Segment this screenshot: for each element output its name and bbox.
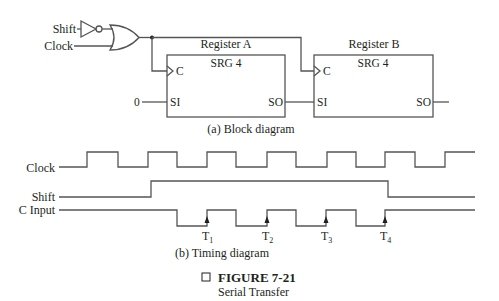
figure-title: Serial Transfer — [218, 285, 289, 299]
or-gate-icon — [110, 25, 139, 50]
c-input-signal-label: C Input — [19, 203, 56, 217]
timing-diagram: Clock Shift C Input T1 T2 T3 T4 (b) Timi… — [19, 152, 475, 260]
register-b: Register B SRG 4 C SI SO — [314, 37, 433, 117]
register-a-so-pin: SO — [268, 96, 283, 108]
marker-t4: T4 — [380, 229, 391, 245]
register-b-so-pin: SO — [416, 96, 431, 108]
marker-t1: T1 — [202, 229, 213, 245]
serial-transfer-figure: Shift Clock Register A SRG 4 C SI SO — [0, 0, 499, 301]
register-b-clock-pin: C — [323, 65, 331, 77]
block-diagram-caption: (a) Block diagram — [207, 122, 295, 136]
timing-diagram-caption: (b) Timing diagram — [175, 246, 270, 260]
shift-signal-label: Shift — [32, 190, 56, 204]
register-a-clock-pin: C — [176, 65, 184, 77]
register-a-label: Register A — [201, 37, 252, 51]
figure-number: FIGURE 7-21 — [218, 270, 296, 285]
not-gate-icon — [81, 21, 102, 37]
register-a: Register A SRG 4 C SI SO — [167, 37, 285, 117]
marker-t3: T3 — [321, 229, 332, 245]
register-a-type: SRG 4 — [211, 57, 242, 69]
register-b-label: Register B — [349, 37, 400, 51]
marker-t2: T2 — [262, 229, 273, 245]
figure-caption: FIGURE 7-21 Serial Transfer — [202, 270, 296, 299]
clock-waveform — [59, 152, 475, 167]
block-diagram: Shift Clock Register A SRG 4 C SI SO — [44, 21, 449, 136]
shift-waveform — [59, 181, 475, 197]
register-b-type: SRG 4 — [358, 57, 389, 69]
clock-signal-label: Clock — [26, 161, 55, 175]
shift-input-label: Shift — [53, 22, 77, 36]
serial-in-zero: 0 — [134, 96, 140, 108]
clock-a-wire — [152, 38, 167, 72]
register-b-si-pin: SI — [317, 96, 327, 108]
square-outline-icon — [202, 273, 210, 281]
clock-input-label: Clock — [44, 39, 73, 53]
register-a-si-pin: SI — [170, 96, 180, 108]
